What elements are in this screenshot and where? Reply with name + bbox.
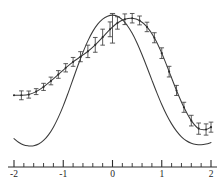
data-point [168, 71, 170, 73]
x-axis [8, 160, 217, 167]
x-axis-tick-labels: -2-1012 [10, 169, 214, 179]
data-point [146, 26, 148, 28]
data-point [183, 106, 185, 108]
data-point [43, 86, 45, 88]
data-point [116, 22, 118, 24]
data-point [87, 50, 89, 52]
x-axis-tick-label: -2 [10, 169, 18, 179]
error-bar-layer [19, 13, 213, 135]
data-point [198, 128, 200, 130]
data-point [65, 67, 67, 69]
x-axis-tick-label: 0 [110, 169, 115, 179]
x-axis-tick-label: 1 [159, 169, 164, 179]
data-point [35, 91, 37, 93]
data-point [20, 94, 22, 96]
data-point [102, 36, 104, 38]
x-axis-tick-label: -1 [59, 169, 67, 179]
data-point [50, 80, 52, 82]
data-point [210, 126, 212, 128]
data-point [79, 56, 81, 58]
data-point [139, 19, 141, 21]
chart-plot-area: -2-1012 [0, 0, 221, 188]
data-point [161, 52, 163, 54]
data-point [124, 18, 126, 20]
data-point [175, 89, 177, 91]
data-point [94, 44, 96, 46]
data-point [57, 73, 59, 75]
figure-container: -2-1012 [0, 0, 221, 188]
data-point [13, 94, 15, 96]
data-point [205, 128, 207, 130]
data-point [153, 37, 155, 39]
data-point [131, 17, 133, 19]
data-point [190, 120, 192, 122]
data-point [109, 28, 111, 30]
data-point [72, 61, 74, 63]
x-axis-tick-label: 2 [209, 169, 214, 179]
data-point [28, 94, 30, 96]
